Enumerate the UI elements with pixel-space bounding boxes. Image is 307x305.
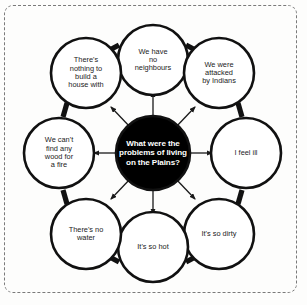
node-label-so-hot: It's so hot <box>118 212 188 282</box>
node-label-nothing-to-build: There's nothing to build a house with <box>51 38 121 108</box>
node-label-no-water: There's no water <box>51 199 121 269</box>
node-label-so-dirty: It's so dirty <box>184 199 254 269</box>
node-label-no-wood: We can't find any wood for a fire <box>24 118 94 188</box>
node-label-attacked-by-indians: We were attacked by Indians <box>184 38 254 108</box>
center-question-label: What were the problems of living on the … <box>118 118 188 188</box>
node-label-feel-ill: I feel ill <box>211 118 281 188</box>
diagram-page: We have no neighbours We were attacked b… <box>0 0 307 305</box>
node-label-no-neighbours: We have no neighbours <box>118 25 188 95</box>
